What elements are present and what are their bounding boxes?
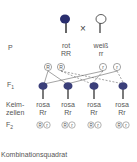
f1-plant-label: rosa Rr: [33, 101, 53, 117]
svg-text:R: R: [89, 123, 93, 128]
svg-text:r: r: [97, 123, 99, 128]
svg-text:r: r: [71, 123, 73, 128]
row-label-keimzellen: Keim- zellen: [6, 101, 24, 117]
svg-text:r: r: [116, 64, 118, 70]
row-label-f2: F2: [6, 121, 13, 131]
f1-plant-label: rosa Rr: [58, 101, 78, 117]
svg-text:R: R: [46, 64, 50, 70]
svg-text:r: r: [102, 64, 104, 70]
diagram-graphics: × R R r r R r R: [0, 0, 137, 162]
svg-text:R: R: [38, 123, 42, 128]
svg-text:R: R: [117, 123, 121, 128]
f1-plant-label: rosa Rr: [84, 101, 104, 117]
svg-text:R: R: [59, 64, 63, 70]
cross-symbol: ×: [80, 23, 86, 34]
parent-right-label: weiß rr: [89, 42, 113, 58]
parent-flower-white-icon: [96, 15, 106, 34]
parent-flower-red-icon: [60, 15, 70, 34]
f1-plant-label: rosa Rr: [112, 101, 132, 117]
svg-text:R: R: [63, 123, 67, 128]
svg-text:r: r: [46, 123, 48, 128]
svg-text:r: r: [125, 123, 127, 128]
parent-left-label: rot RR: [56, 42, 76, 58]
row-label-f1: F1: [7, 81, 14, 91]
f1-flower-icons: [39, 82, 128, 99]
caption: Kombinationsquadrat: [1, 151, 67, 158]
row-label-p: P: [8, 44, 13, 52]
